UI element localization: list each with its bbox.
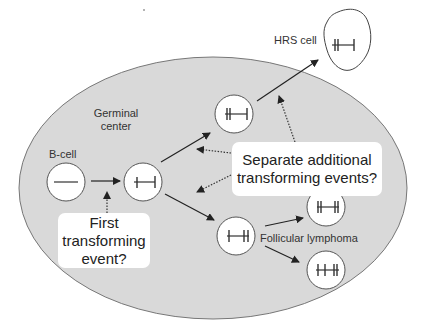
lower-branch-cell-node — [217, 217, 255, 255]
germinal-center-label-line2: center — [88, 120, 144, 133]
germinal-center-label: Germinal center — [88, 107, 144, 133]
first-transformed-cell-node — [124, 163, 162, 201]
hrs-cell-outline — [324, 9, 371, 70]
first-event-line3: event? — [81, 250, 126, 268]
upper-branch-cell-node — [215, 95, 253, 133]
b-cell-label: B-cell — [49, 148, 77, 160]
separate-events-line2: transforming events? — [237, 169, 377, 187]
first-event-callout: First transforming event? — [58, 213, 150, 268]
separate-events-callout: Separate additional transforming events? — [232, 142, 382, 196]
b-cell-node — [47, 163, 85, 201]
germinal-center-label-line1: Germinal — [88, 107, 144, 120]
separate-events-line1: Separate additional — [242, 151, 371, 169]
first-event-line2: transforming — [62, 232, 145, 250]
hrs-cell-label: HRS cell — [274, 34, 317, 46]
first-event-line1: First — [89, 214, 118, 232]
follicular-lymphoma-label: Follicular lymphoma — [260, 232, 358, 244]
stray-dot — [143, 9, 145, 11]
fl-cell-b-node — [307, 251, 345, 289]
